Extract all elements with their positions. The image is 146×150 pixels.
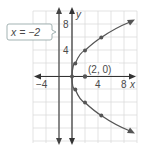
directrix-label: x = −2 [10, 26, 40, 38]
tick-x-8: 8 [121, 79, 127, 90]
focus-label: (2, 0) [88, 64, 111, 75]
parabola-graph: −4 4 8 x 4 8 y (2, 0) x = −2 [0, 0, 146, 150]
focus-point [83, 74, 87, 78]
tick-x-neg4: −4 [36, 79, 48, 90]
x-axis-label: x [129, 79, 136, 90]
y-axis-label: y [75, 9, 82, 20]
tick-x-4: 4 [95, 79, 101, 90]
tick-y-8: 8 [63, 19, 69, 30]
directrix-callout: x = −2 [7, 24, 56, 40]
tick-y-4: 4 [63, 45, 69, 56]
